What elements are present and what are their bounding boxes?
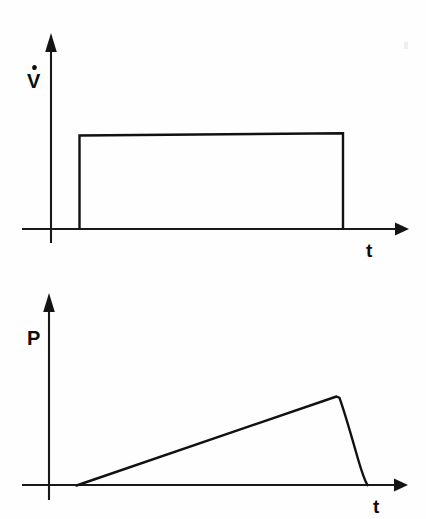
figure-root: V t P t	[0, 0, 426, 519]
flow-y-axis-label: V	[27, 65, 41, 92]
flow-chart-svg: V t	[0, 0, 426, 260]
pressure-x-axis-arrowhead	[394, 479, 408, 492]
flow-x-axis-label: t	[366, 240, 373, 260]
flow-chart-panel: V t	[0, 0, 426, 260]
flow-pulse-trace	[80, 133, 344, 229]
pressure-y-axis-label: P	[27, 327, 40, 349]
pressure-ramp-trace	[77, 397, 368, 486]
pressure-chart-panel: P t	[0, 260, 426, 519]
pressure-x-axis-label: t	[373, 496, 380, 517]
flow-y-axis-label-text: V	[27, 70, 41, 92]
pressure-chart-svg: P t	[0, 260, 426, 519]
pressure-y-axis-arrowhead	[43, 293, 55, 312]
flow-y-axis-label-overdot	[32, 65, 37, 70]
flow-x-axis-arrowhead	[395, 223, 409, 236]
flow-y-axis-arrowhead	[45, 33, 57, 52]
